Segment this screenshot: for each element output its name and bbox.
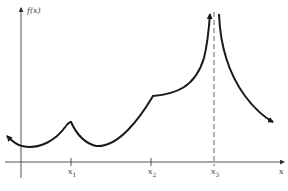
y-axis-label: f(x) bbox=[27, 7, 41, 15]
x-axis-label: x bbox=[279, 168, 284, 176]
tick-label-x2: x2 bbox=[148, 168, 156, 178]
tick-label-x2-sub: 2 bbox=[153, 171, 157, 178]
tick-label-x3-sub: 3 bbox=[216, 171, 220, 178]
tick-label-x1: x1 bbox=[68, 168, 76, 178]
curve-left-branch bbox=[7, 126, 66, 147]
tick-label-x3: x3 bbox=[211, 168, 219, 178]
function-graph bbox=[0, 0, 288, 191]
curve-right-branch bbox=[219, 14, 273, 122]
tick-label-x1-sub: 1 bbox=[73, 171, 77, 178]
curve-middle-branch bbox=[66, 14, 210, 146]
